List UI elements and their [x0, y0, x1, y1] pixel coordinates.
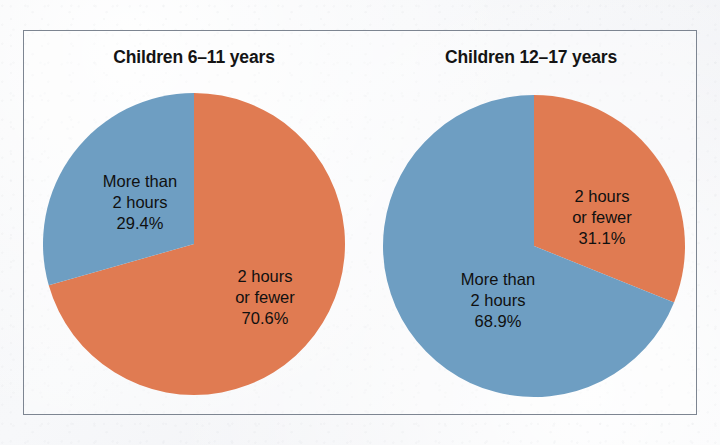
chart-frame-border: Children 6–11 years More than 2 hours 29… — [23, 30, 697, 415]
chart-title-right: Children 12–17 years — [364, 47, 698, 68]
pie-svg-left — [42, 92, 346, 396]
pie-chart-panel-children-6-11: Children 6–11 years More than 2 hours 29… — [24, 31, 364, 416]
chart-title-left: Children 6–11 years — [24, 47, 364, 68]
pie-chart-left — [42, 92, 346, 396]
pie-chart-panel-children-12-17: Children 12–17 years — [364, 31, 698, 416]
pie-svg-right — [382, 94, 686, 398]
pie-chart-right — [382, 94, 686, 398]
figure-container: Children 6–11 years More than 2 hours 29… — [0, 0, 720, 445]
